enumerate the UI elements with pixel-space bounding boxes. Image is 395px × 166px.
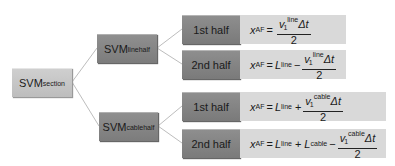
minus-sign: − (329, 138, 335, 150)
cable-2nd-half-formula: xAF = Lline + Lcable − v1cableΔt 2 (240, 129, 386, 158)
v-sup: cable (314, 93, 331, 100)
lhs-sub: AF (256, 103, 265, 110)
line-1st-half-formula: xAF = v1lineΔt 2 (240, 15, 346, 44)
delta-t: Δt (324, 53, 334, 65)
fraction: v1lineΔt 2 (302, 49, 336, 81)
length-sub: line (281, 61, 292, 68)
svm-cable-half-node: SVMcablehalf (99, 112, 158, 141)
branch-label: SVM (103, 121, 127, 133)
branch-subscript: line (128, 46, 139, 53)
v-sub: 1 (283, 24, 287, 31)
line-2nd-half-node: 2nd half (182, 50, 240, 79)
line-2nd-half-formula: xAF = Lline − v1lineΔt 2 (240, 50, 346, 79)
v-sup: line (313, 51, 324, 58)
lhs-sub: AF (256, 140, 265, 147)
equals-sign: = (266, 138, 272, 150)
denominator: 2 (316, 70, 322, 81)
length-sub: cable (310, 140, 327, 147)
lhs-sub: AF (256, 61, 265, 68)
lhs-sub: AF (256, 26, 265, 33)
v-sup: cable (348, 130, 365, 137)
delta-t: Δt (298, 18, 308, 30)
denominator: 2 (354, 149, 360, 160)
equals-sign: = (266, 24, 272, 36)
line-1st-half-node: 1st half (182, 15, 240, 44)
v-sup: line (287, 16, 298, 23)
cable-1st-half-node: 1st half (182, 92, 240, 121)
branch-superscript: half (143, 124, 154, 131)
svm-section-node: SVMsection (12, 68, 72, 97)
half-label: 2nd half (191, 59, 230, 71)
length-sub: line (281, 140, 292, 147)
delta-t: Δt (365, 132, 375, 144)
svm-line-half-node: SVMlinehalf (97, 34, 157, 63)
root-label: SVM (19, 77, 43, 89)
plus-sign: + (295, 101, 301, 113)
cable-2nd-half-node: 2nd half (182, 129, 240, 158)
fraction: v1cableΔt 2 (338, 128, 378, 160)
fraction: v1lineΔt 2 (277, 14, 311, 46)
equals-sign: = (266, 59, 272, 71)
branch-superscript: half (139, 46, 150, 53)
v-sub: 1 (310, 101, 314, 108)
delta-t: Δt (331, 95, 341, 107)
half-label: 1st half (193, 101, 228, 113)
root-subscript: section (43, 80, 65, 87)
v-sub: 1 (344, 138, 348, 145)
denominator: 2 (320, 112, 326, 123)
cable-1st-half-formula: xAF = Lline + v1cableΔt 2 (240, 92, 386, 121)
branch-subscript: cable (126, 124, 143, 131)
half-label: 1st half (193, 24, 228, 36)
denominator: 2 (291, 35, 297, 46)
half-label: 2nd half (191, 138, 230, 150)
length-sub: line (281, 103, 292, 110)
minus-sign: − (294, 59, 300, 71)
plus-sign: + (295, 138, 301, 150)
fraction: v1cableΔt 2 (303, 91, 343, 123)
branch-label: SVM (104, 43, 128, 55)
equals-sign: = (266, 101, 272, 113)
v-sub: 1 (309, 59, 313, 66)
